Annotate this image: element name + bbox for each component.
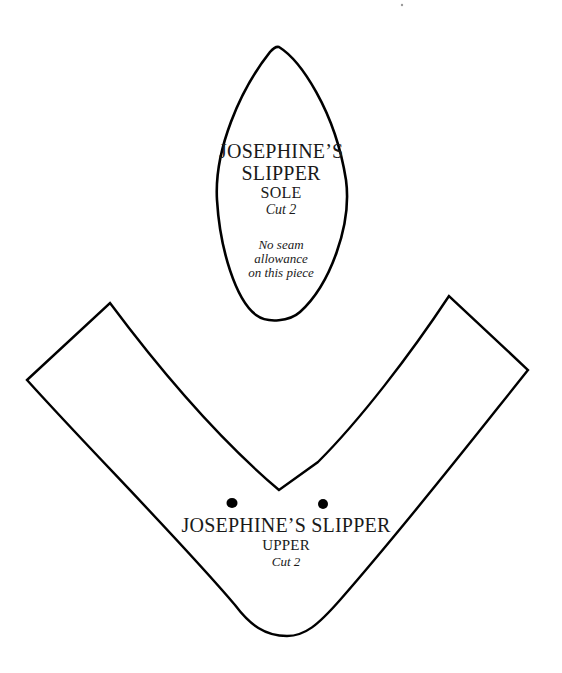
sole-title-line1: JOSEPHINE’S (219, 141, 343, 161)
sole-cut-count: Cut 2 (219, 203, 343, 217)
upper-title: JOSEPHINE’S SLIPPER (176, 515, 396, 535)
sole-note-line1: No seam (219, 238, 343, 251)
placement-dot-right (318, 499, 328, 509)
sole-note-line2: allowance (219, 252, 343, 265)
paper-speck (401, 4, 403, 6)
sole-note-line3: on this piece (219, 266, 343, 279)
placement-dot-left (227, 498, 238, 508)
pattern-canvas (0, 0, 562, 673)
upper-outline (27, 296, 528, 636)
upper-cut-count: Cut 2 (176, 555, 396, 568)
sole-title-line2: SLIPPER (219, 163, 343, 183)
upper-part-label: UPPER (176, 538, 396, 553)
sole-part-label: SOLE (219, 185, 343, 201)
